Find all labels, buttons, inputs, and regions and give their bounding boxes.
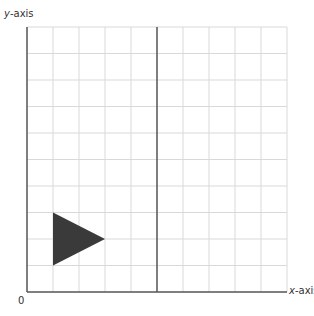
coordinate-grid bbox=[0, 0, 314, 316]
x-axis-label: x-axis bbox=[289, 285, 314, 296]
origin-label: 0 bbox=[18, 295, 24, 306]
y-axis-suffix: -axis bbox=[10, 8, 34, 19]
y-axis-label: y-axis bbox=[4, 8, 34, 19]
x-axis-suffix: -axis bbox=[295, 285, 314, 296]
